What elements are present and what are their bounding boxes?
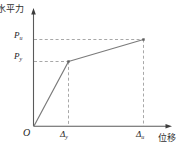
y-tick-py-symbol: P (14, 51, 20, 61)
x-tick-label-delta-u: Δu (136, 130, 144, 139)
x-axis (34, 124, 173, 129)
x-axis-title: 位移 (158, 134, 176, 143)
y-tick-label-py: Py (14, 52, 22, 61)
y-axis-title: 水平力 (0, 5, 24, 14)
chart-plot-area (0, 0, 185, 148)
x-tick-dy-subscript: y (65, 134, 68, 140)
y-tick-py-subscript: y (20, 56, 23, 62)
y-tick-pu-subscript: u (20, 35, 23, 41)
force-displacement-chart: 水平力 位移 O Pu Py Δy Δu (0, 0, 185, 148)
x-tick-label-delta-y: Δy (60, 130, 68, 139)
y-axis (31, 8, 36, 126)
data-point-ultimate (142, 38, 144, 40)
data-point-yield (67, 60, 69, 62)
y-tick-label-pu: Pu (14, 31, 23, 40)
y-tick-pu-symbol: P (14, 30, 20, 40)
origin-label: O (23, 128, 30, 138)
skeleton-curve (34, 40, 144, 127)
x-tick-du-subscript: u (141, 134, 144, 140)
